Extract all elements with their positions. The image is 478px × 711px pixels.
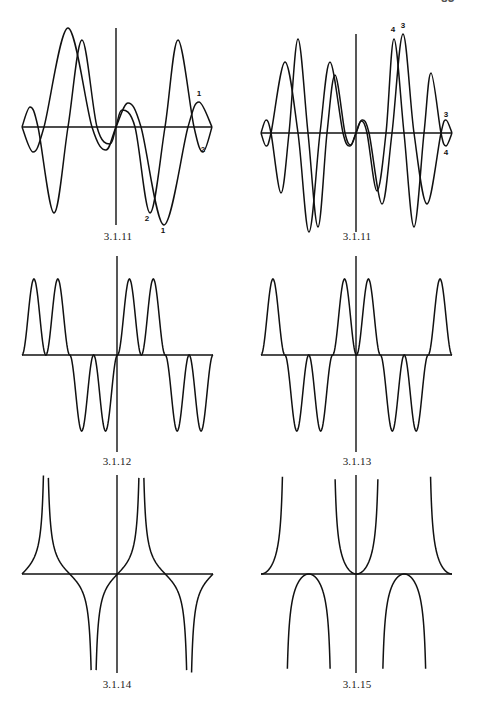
curve-label: 4: [391, 25, 396, 34]
figure-page: 1221 4334: [0, 0, 478, 711]
caption-3-1-13: 3.1.13: [343, 455, 372, 467]
curve-branch: [431, 477, 452, 574]
curve-label: 2: [201, 145, 206, 154]
curve-label: 1: [197, 89, 202, 98]
curve-branch: [383, 574, 426, 669]
curve-label: 3: [444, 110, 449, 119]
plot-3-1-11-left: 1221: [22, 28, 212, 235]
plot-3-1-13: [261, 256, 452, 452]
curve-label: 3: [401, 21, 406, 30]
curve-branch: [287, 574, 330, 669]
curve-branch: [22, 475, 43, 574]
plot-3-1-15: [261, 475, 452, 673]
caption-3-1-11-right: 3.1.11: [343, 230, 371, 242]
caption-3-1-11-left: 3.1.11: [104, 230, 132, 242]
plot-3-1-14: [22, 475, 213, 673]
caption-3-1-12: 3.1.12: [103, 455, 132, 467]
caption-3-1-15: 3.1.15: [343, 678, 372, 690]
plot-3-1-12: [22, 256, 213, 452]
curve-label: 4: [444, 148, 449, 157]
caption-3-1-14: 3.1.14: [103, 678, 132, 690]
curve-label: 1: [161, 226, 166, 235]
plot-3-1-11-right: 4334: [261, 21, 452, 232]
curve-label: 2: [145, 214, 150, 223]
curve-branch: [192, 574, 213, 673]
curve-branch: [261, 477, 282, 574]
